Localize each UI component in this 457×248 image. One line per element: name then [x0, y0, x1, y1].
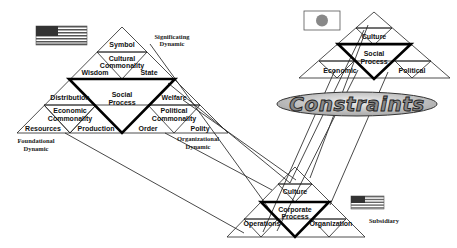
- us-flag-icon: [36, 26, 87, 45]
- label-organization: Organization: [310, 220, 353, 228]
- label-commonality-economic: Commonality: [48, 115, 92, 123]
- label-foundational: Foundational: [17, 137, 54, 144]
- label-corporate-process: Process: [281, 213, 308, 220]
- label-significating-dynamic: Dynamic: [160, 40, 185, 47]
- label-order: Order: [138, 125, 157, 132]
- label-distribution: Distribution: [50, 94, 89, 101]
- label-wisdom: Wisdom: [81, 69, 108, 76]
- label-operations: Operations: [244, 220, 281, 228]
- label-process: Process: [108, 99, 135, 106]
- label-symbol: Symbol: [109, 41, 134, 49]
- japan-flag-icon: [304, 11, 340, 30]
- label-japan-social: Social: [364, 50, 385, 57]
- label-commonality-political: Commonality: [152, 115, 196, 123]
- subsidiary-us-flag-icon: [351, 196, 384, 209]
- label-economic: Economic: [53, 107, 87, 114]
- constraints-label: Constraints: [289, 92, 425, 116]
- label-foundational-dynamic: Dynamic: [24, 145, 49, 152]
- label-japan-economic: Economic: [323, 67, 357, 74]
- label-organizational: Organizational: [177, 135, 219, 142]
- label-organizational-dynamic: Dynamic: [186, 143, 211, 150]
- diagram-canvas: Symbol Cultural Commonality Wisdom State…: [0, 0, 457, 248]
- label-cultural: Cultural: [109, 55, 136, 62]
- label-subsidiary-culture: Culture: [283, 188, 308, 195]
- parent-us-pyramid: Symbol Cultural Commonality Wisdom State…: [17, 27, 228, 152]
- label-welfare: Welfare: [161, 94, 186, 101]
- label-polity: Polity: [190, 125, 209, 133]
- label-political: Political: [161, 107, 188, 114]
- label-state: State: [140, 69, 157, 76]
- label-resources: Resources: [25, 125, 61, 132]
- label-production: Production: [78, 125, 115, 132]
- label-social: Social: [112, 91, 133, 98]
- label-significating: Significating: [154, 33, 190, 40]
- label-japan-process: Process: [360, 58, 387, 65]
- label-japan-political: Political: [399, 67, 426, 74]
- constraints-ellipse: Constraints: [277, 92, 437, 116]
- label-japan-culture: Culture: [362, 33, 387, 40]
- label-subsidiary: Subsidiary: [369, 217, 400, 224]
